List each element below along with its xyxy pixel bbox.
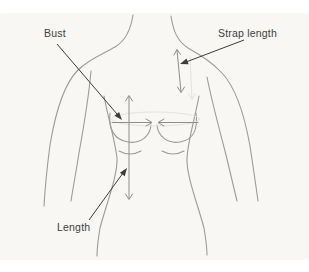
diagram-panel-background (0, 13, 309, 260)
length-label: Length (57, 221, 90, 233)
measurement-diagram: Bust Strap length Length (0, 0, 309, 272)
diagram-canvas: Bust Strap length Length (0, 0, 309, 272)
bust-label: Bust (44, 27, 66, 39)
strap-length-label: Strap length (218, 27, 277, 39)
